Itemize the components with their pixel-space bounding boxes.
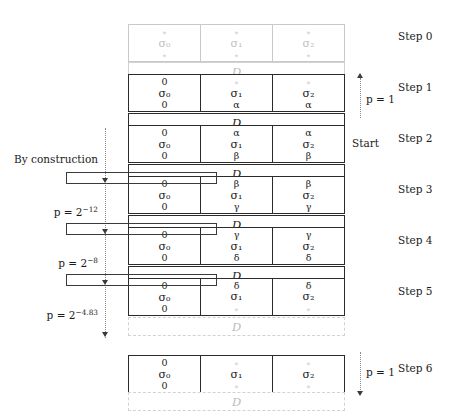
state-output-diff-step1-col1: α — [201, 100, 272, 111]
state-output-diff-step0-col1: ∗ — [201, 50, 272, 62]
sbox-label-step0-col1: σ₁ — [201, 37, 272, 50]
state-cell-step4-col1: γσ₁δ — [201, 228, 273, 264]
state-output-diff-step0-col2: ∗ — [273, 50, 344, 62]
state-input-diff-step4-col1: γ — [201, 228, 272, 239]
annotation-p-2-8-text: p = 2−8 — [58, 257, 98, 269]
annotation-p-2-8: p = 2−8 — [0, 255, 98, 269]
bottom-probability-arrowhead — [357, 391, 363, 396]
state-output-diff-step4-col0: 0 — [129, 253, 200, 264]
sbox-label-step2-col1: σ₁ — [201, 138, 272, 151]
state-box-step6: 0σ₀0∗σ₁∗∗σ₂∗ — [128, 355, 345, 393]
permutation-box-step6: D — [128, 392, 345, 411]
state-cell-step5-col2: δσ₂∗ — [273, 279, 344, 315]
state-cell-step1-col1: ∗σ₁α — [201, 75, 273, 111]
annotation-p-2-12: p = 2−12 — [0, 204, 98, 218]
state-output-diff-step5-col0: 0 — [129, 304, 200, 315]
state-cell-step0-col1: ∗σ₁∗ — [201, 25, 273, 61]
sbox-label-step5-col2: σ₂ — [273, 290, 344, 303]
annotation-p-2-12-text: p = 2−12 — [54, 206, 98, 218]
top-probability-arrowhead — [357, 73, 363, 78]
state-box-step3: 0σ₀0βσ₁γβσ₂γ — [128, 176, 345, 214]
state-input-diff-step4-col0: 0 — [129, 228, 200, 239]
state-cell-step2-col2: ασ₂β — [273, 126, 344, 162]
top-probability-connector — [360, 78, 361, 118]
state-box-step4: 0σ₀0γσ₁δγσ₂δ — [128, 227, 345, 265]
state-input-diff-step0-col1: ∗ — [201, 25, 272, 37]
state-box-step5: 0σ₀0δσ₁∗δσ₂∗ — [128, 278, 345, 316]
sbox-label-step6-col1: σ₁ — [201, 368, 272, 381]
state-input-diff-step6-col2: ∗ — [273, 356, 344, 368]
state-output-diff-step4-col1: δ — [201, 253, 272, 264]
state-cell-step3-col1: βσ₁γ — [201, 177, 273, 213]
state-output-diff-step3-col2: γ — [273, 202, 344, 213]
state-box-step2: 0σ₀0ασ₁βασ₂β — [128, 125, 345, 163]
step-label-step4: Step 4 — [398, 234, 432, 246]
state-output-diff-step6-col2: ∗ — [273, 381, 344, 393]
state-input-diff-step2-col1: α — [201, 126, 272, 137]
state-cell-step5-col0: 0σ₀0 — [129, 279, 201, 315]
sbox-label-step6-col0: σ₀ — [129, 368, 200, 381]
state-output-diff-step5-col2: ∗ — [273, 304, 344, 316]
start-label: Start — [352, 137, 379, 149]
state-output-diff-step2-col0: 0 — [129, 151, 200, 162]
spine-arrowhead-1 — [102, 178, 108, 183]
state-cell-step6-col1: ∗σ₁∗ — [201, 356, 273, 392]
state-cell-step3-col0: 0σ₀0 — [129, 177, 201, 213]
state-cell-step1-col0: 0σ₀0 — [129, 75, 201, 111]
state-input-diff-step5-col1: δ — [201, 279, 272, 290]
sbox-label-step5-col0: σ₀ — [129, 291, 200, 304]
annotation-p-2-483-text: p = 2−4.83 — [47, 309, 98, 321]
state-input-diff-step5-col0: 0 — [129, 279, 200, 290]
sbox-label-step2-col2: σ₂ — [273, 138, 344, 151]
sbox-label-step3-col0: σ₀ — [129, 189, 200, 202]
sbox-label-step1-col2: σ₂ — [273, 87, 344, 100]
step-label-step3: Step 3 — [398, 183, 432, 195]
state-cell-step2-col0: 0σ₀0 — [129, 126, 201, 162]
state-cell-step4-col2: γσ₂δ — [273, 228, 344, 264]
sbox-label-step3-col1: σ₁ — [201, 189, 272, 202]
state-output-diff-step0-col0: ∗ — [129, 50, 200, 62]
annotation-p-2-483: p = 2−4.83 — [0, 307, 98, 321]
bottom-probability-connector — [360, 352, 361, 392]
state-output-diff-step3-col1: γ — [201, 202, 272, 213]
state-cell-step4-col0: 0σ₀0 — [129, 228, 201, 264]
state-input-diff-step3-col2: β — [273, 177, 344, 188]
state-box-step1: 0σ₀0∗σ₁α∗σ₂α — [128, 74, 345, 112]
step-label-step5: Step 5 — [398, 285, 432, 297]
bottom-probability-label: p = 1 — [366, 366, 395, 378]
permutation-box-step5: D — [128, 317, 345, 336]
state-cell-step6-col2: ∗σ₂∗ — [273, 356, 344, 392]
state-cell-step2-col1: ασ₁β — [201, 126, 273, 162]
sbox-label-step4-col0: σ₀ — [129, 240, 200, 253]
sbox-label-step1-col0: σ₀ — [129, 87, 200, 100]
sbox-label-step1-col1: σ₁ — [201, 87, 272, 100]
spine-arrowhead-3 — [102, 280, 108, 285]
state-cell-step0-col0: ∗σ₀∗ — [129, 25, 201, 61]
sbox-label-step2-col0: σ₀ — [129, 138, 200, 151]
diagram-canvas: By construction p = 2−12 p = 2−8 p = 2−4… — [0, 0, 474, 418]
state-box-step0: ∗σ₀∗∗σ₁∗∗σ₂∗ — [128, 24, 345, 62]
state-input-diff-step0-col2: ∗ — [273, 25, 344, 37]
state-output-diff-step6-col0: 0 — [129, 381, 200, 392]
state-cell-step5-col1: δσ₁∗ — [201, 279, 273, 315]
sbox-label-step4-col2: σ₂ — [273, 240, 344, 253]
state-input-diff-step0-col0: ∗ — [129, 25, 200, 37]
sbox-label-step0-col2: σ₂ — [273, 37, 344, 50]
state-output-diff-step2-col1: β — [201, 151, 272, 162]
state-cell-step3-col2: βσ₂γ — [273, 177, 344, 213]
state-output-diff-step2-col2: β — [273, 151, 344, 162]
state-input-diff-step4-col2: γ — [273, 228, 344, 239]
spine-arrowhead-4 — [102, 332, 108, 337]
spine-arrowhead-2 — [102, 229, 108, 234]
step-label-step1: Step 1 — [398, 81, 432, 93]
sbox-label-step5-col1: σ₁ — [201, 290, 272, 303]
state-input-diff-step3-col1: β — [201, 177, 272, 188]
state-output-diff-step4-col2: δ — [273, 253, 344, 264]
state-input-diff-step1-col2: ∗ — [273, 75, 344, 87]
state-output-diff-step1-col2: α — [273, 100, 344, 111]
state-cell-step0-col2: ∗σ₂∗ — [273, 25, 344, 61]
sbox-label-step3-col2: σ₂ — [273, 189, 344, 202]
state-output-diff-step6-col1: ∗ — [201, 381, 272, 393]
state-input-diff-step1-col0: 0 — [129, 75, 200, 86]
state-input-diff-step1-col1: ∗ — [201, 75, 272, 87]
